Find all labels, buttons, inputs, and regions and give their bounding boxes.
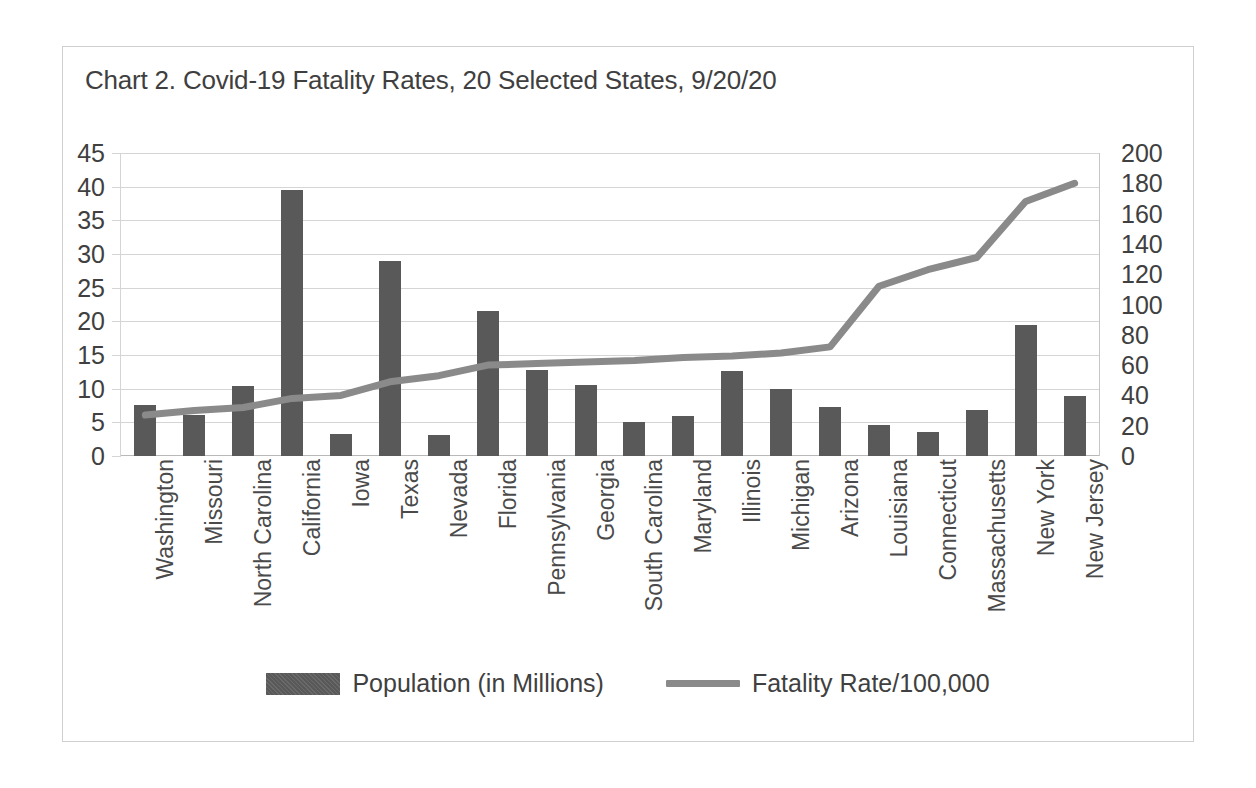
screenshot-canvas: Chart 2. Covid-19 Fatality Rates, 20 Sel… bbox=[0, 0, 1256, 788]
y-tick-mark-left bbox=[112, 187, 121, 188]
y-tick-label-left: 15 bbox=[77, 343, 105, 368]
x-tick-label: New York bbox=[1035, 459, 1058, 556]
y-tick-label-right: 160 bbox=[1121, 202, 1163, 227]
y-tick-mark-left bbox=[112, 422, 121, 423]
x-tick-label: Iowa bbox=[350, 459, 373, 508]
y-tick-label-left: 25 bbox=[77, 276, 105, 301]
bar-swatch-icon bbox=[266, 673, 340, 695]
y-axis-right: 200180160140120100806040200 bbox=[1099, 47, 1189, 741]
fatality-rate-polyline bbox=[145, 183, 1074, 415]
y-tick-mark-left bbox=[112, 153, 121, 154]
y-tick-label-right: 80 bbox=[1121, 323, 1149, 348]
chart-title: Chart 2. Covid-19 Fatality Rates, 20 Sel… bbox=[85, 65, 777, 96]
y-tick-label-right: 0 bbox=[1121, 444, 1135, 469]
y-tick-label-left: 40 bbox=[77, 175, 105, 200]
y-tick-mark-left bbox=[112, 355, 121, 356]
y-tick-mark-left bbox=[112, 220, 121, 221]
y-tick-label-right: 120 bbox=[1121, 262, 1163, 287]
x-axis-labels: WashingtonMissouriNorth CarolinaCaliforn… bbox=[121, 459, 1099, 659]
y-tick-label-left: 10 bbox=[77, 377, 105, 402]
x-tick-label: Nevada bbox=[448, 459, 471, 538]
y-tick-mark-left bbox=[112, 254, 121, 255]
axis-right-line bbox=[1099, 153, 1100, 456]
plot-area bbox=[121, 153, 1099, 456]
x-tick-label: Georgia bbox=[595, 459, 618, 541]
x-tick-label: Illinois bbox=[741, 459, 764, 523]
chart-container: Chart 2. Covid-19 Fatality Rates, 20 Sel… bbox=[62, 46, 1194, 742]
y-axis-left: 454035302520151050 bbox=[63, 47, 115, 741]
legend-item-population[interactable]: Population (in Millions) bbox=[266, 669, 604, 698]
x-tick-label: Missouri bbox=[203, 459, 226, 545]
legend-label-fatality-rate: Fatality Rate/100,000 bbox=[752, 669, 990, 698]
x-tick-label: Arizona bbox=[839, 459, 862, 537]
y-tick-mark-left bbox=[112, 288, 121, 289]
y-tick-label-left: 0 bbox=[91, 444, 105, 469]
legend-label-population: Population (in Millions) bbox=[352, 669, 604, 698]
x-tick-label: California bbox=[301, 459, 324, 556]
y-tick-label-right: 200 bbox=[1121, 141, 1163, 166]
y-tick-label-left: 30 bbox=[77, 242, 105, 267]
y-tick-mark-left bbox=[112, 389, 121, 390]
x-tick-label: South Carolina bbox=[643, 459, 666, 611]
x-tick-label: Texas bbox=[399, 459, 422, 519]
x-tick-label: Louisiana bbox=[888, 459, 911, 557]
y-tick-label-right: 140 bbox=[1121, 232, 1163, 257]
y-tick-mark-left bbox=[112, 456, 121, 457]
legend-item-fatality-rate[interactable]: Fatality Rate/100,000 bbox=[666, 669, 990, 698]
x-tick-label: Pennsylvania bbox=[546, 459, 569, 596]
line-series-fatality-rate bbox=[121, 153, 1099, 456]
x-tick-label: Maryland bbox=[692, 459, 715, 554]
x-tick-label: Michigan bbox=[790, 459, 813, 551]
x-tick-label: Massachusetts bbox=[986, 459, 1009, 612]
y-tick-label-right: 60 bbox=[1121, 353, 1149, 378]
line-swatch-icon bbox=[666, 680, 740, 687]
x-tick-label: New Jersey bbox=[1084, 459, 1107, 579]
y-tick-label-left: 45 bbox=[77, 141, 105, 166]
x-tick-label: Washington bbox=[154, 459, 177, 580]
y-tick-label-right: 180 bbox=[1121, 171, 1163, 196]
y-tick-label-right: 40 bbox=[1121, 383, 1149, 408]
chart-legend: Population (in Millions) Fatality Rate/1… bbox=[63, 669, 1193, 698]
x-tick-label: Florida bbox=[497, 459, 520, 529]
y-tick-label-left: 35 bbox=[77, 208, 105, 233]
y-tick-mark-left bbox=[112, 321, 121, 322]
y-tick-label-left: 20 bbox=[77, 309, 105, 334]
x-tick-label: North Carolina bbox=[252, 459, 275, 607]
x-tick-label: Connecticut bbox=[937, 459, 960, 580]
y-tick-label-left: 5 bbox=[91, 410, 105, 435]
y-tick-label-right: 100 bbox=[1121, 293, 1163, 318]
y-tick-label-right: 20 bbox=[1121, 414, 1149, 439]
